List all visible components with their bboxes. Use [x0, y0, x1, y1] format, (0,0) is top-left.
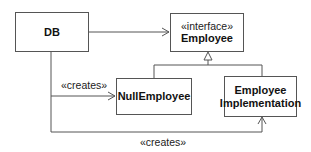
- class-employee[interactable]: «interface» Employee: [170, 13, 244, 52]
- class-null-employee[interactable]: NullEmployee: [116, 78, 192, 115]
- class-name-line1: Employee: [235, 84, 287, 97]
- stereotype: «interface»: [181, 20, 233, 32]
- class-employee-implementation[interactable]: Employee Implementation: [224, 76, 297, 117]
- class-db[interactable]: DB: [15, 12, 89, 52]
- class-name-line2: Implementation: [220, 97, 301, 110]
- class-name: DB: [44, 26, 60, 39]
- class-name: NullEmployee: [118, 90, 191, 103]
- creates-impl-label: «creates»: [140, 136, 186, 148]
- hollow-triangle-icon: [204, 52, 212, 60]
- class-name: Employee: [181, 32, 233, 45]
- creates-null-label: «creates»: [61, 79, 107, 91]
